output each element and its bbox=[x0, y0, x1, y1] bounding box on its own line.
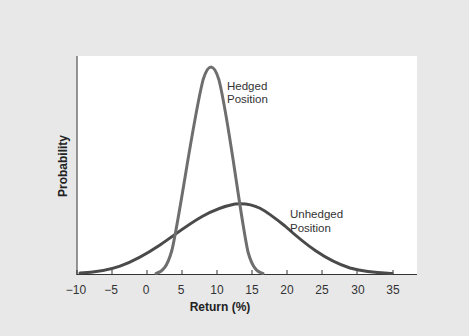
hedged-label-line2: Position bbox=[227, 93, 268, 105]
chart-svg: −10 −5 0 5 10 15 20 25 30 35 Return (%) … bbox=[0, 0, 469, 336]
unhedged-label-line1: Unhedged bbox=[290, 208, 343, 220]
tick-label: 25 bbox=[315, 283, 329, 297]
tick-label: −10 bbox=[66, 283, 87, 297]
unhedged-label-line2: Position bbox=[290, 222, 331, 234]
tick-label: −5 bbox=[104, 283, 118, 297]
tick-label: 35 bbox=[386, 283, 400, 297]
tick-label: 0 bbox=[143, 283, 150, 297]
unhedged-curve bbox=[80, 204, 392, 274]
x-axis-title: Return (%) bbox=[190, 300, 251, 314]
tick-label: 30 bbox=[351, 283, 365, 297]
tick-label: 5 bbox=[178, 283, 185, 297]
tick-label: 10 bbox=[210, 283, 224, 297]
y-axis-title: Probability bbox=[56, 135, 70, 197]
tick-label: 15 bbox=[245, 283, 259, 297]
hedged-label-line1: Hedged bbox=[227, 80, 267, 92]
tick-label: 20 bbox=[280, 283, 294, 297]
